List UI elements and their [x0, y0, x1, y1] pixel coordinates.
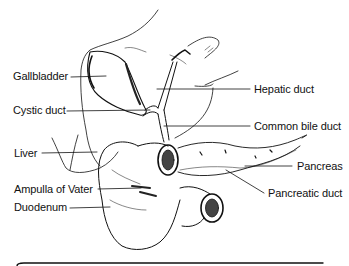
liver-drawing — [52, 10, 238, 173]
label-ampulla-of-vater: Ampulla of Vater — [14, 183, 93, 195]
pancreas-drawing — [178, 135, 307, 176]
label-pancreas: Pancreas — [297, 160, 343, 172]
duct-drawing — [143, 50, 190, 142]
duodenum-drawing — [99, 142, 224, 250]
label-common-bile-duct: Common bile duct — [254, 120, 341, 132]
label-gallbladder: Gallbladder — [13, 70, 68, 82]
anatomy-illustration — [0, 0, 349, 266]
gallbladder-drawing — [88, 51, 147, 115]
label-liver: Liver — [14, 147, 37, 159]
label-hepatic-duct: Hepatic duct — [254, 83, 314, 95]
label-duodenum: Duodenum — [14, 201, 67, 213]
label-pancreatic-duct: Pancreatic duct — [268, 187, 342, 199]
label-cystic-duct: Cystic duct — [13, 104, 66, 116]
